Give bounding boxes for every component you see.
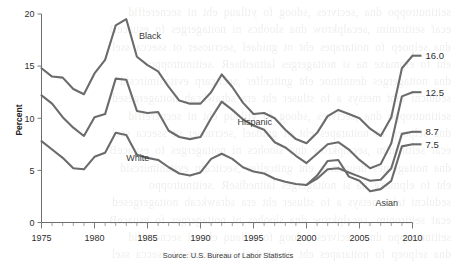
y-tick-label: 20 [24, 9, 34, 19]
chart-axes [38, 14, 413, 229]
end-value-label-hispanic: 12.5 [426, 87, 445, 98]
series-label-asian: Asian [375, 198, 398, 208]
end-value-label-asian: 7.5 [426, 139, 439, 150]
y-tick-marks [38, 14, 42, 223]
y-tick-label: 5 [29, 166, 34, 176]
x-tick-label: 2005 [349, 233, 369, 243]
y-tick-label: 15 [24, 61, 34, 71]
source-note: Source: U.S. Bureau of Labor Statistics [163, 251, 294, 260]
y-tick-label: 0 [29, 218, 34, 228]
series-lines [42, 19, 413, 191]
series-label-black: Black [139, 31, 162, 41]
y-axis-title: Percent [14, 104, 24, 135]
end-value-label-black: 16.0 [426, 50, 445, 61]
x-tick-label: 2000 [296, 233, 316, 243]
x-tick-label: 1975 [31, 233, 51, 243]
chart-container: seitinutroppo dna ,secivres ,sdoog fo yt… [0, 0, 457, 278]
y-tick-labels: 05101520 [24, 9, 34, 228]
x-tick-label: 1980 [84, 233, 104, 243]
series-label-white: White [126, 153, 149, 163]
series-label-hispanic: Hispanic [238, 117, 273, 127]
y-tick-label: 10 [24, 114, 34, 124]
series-inline-labels: BlackHispanicWhiteAsian [126, 31, 398, 208]
x-tick-marks [42, 223, 413, 229]
end-value-label-white: 8.7 [426, 126, 439, 137]
x-tick-label: 1995 [243, 233, 263, 243]
x-tick-label: 1990 [190, 233, 210, 243]
x-tick-labels: 19751980198519901995200020052010 [31, 233, 422, 243]
line-chart: 05101520 1975198019851990199520002005201… [0, 0, 457, 278]
x-tick-label: 2010 [402, 233, 422, 243]
end-value-labels: 16.012.58.77.5 [426, 50, 445, 150]
end-label-connectors [413, 56, 422, 145]
x-tick-label: 1985 [137, 233, 157, 243]
series-line-black [42, 19, 413, 143]
